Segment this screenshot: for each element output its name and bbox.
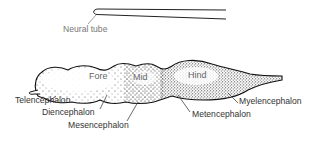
mesencephalon-leader: [127, 102, 138, 121]
neural-tube: [94, 9, 226, 19]
mesencephalon-label: Mesencephalon: [68, 120, 129, 130]
neural-tube-leader: [88, 15, 96, 24]
mid-region-label: Mid: [133, 72, 148, 82]
neural-tube-label: Neural tube: [63, 24, 108, 34]
diencephalon-label: Diencephalon: [42, 107, 95, 117]
brain-development-diagram: Neural tube Fore Mid Hind Telencephalon …: [0, 0, 316, 144]
fore-region-label: Fore: [89, 71, 108, 81]
metencephalon-label: Metencephalon: [192, 109, 251, 119]
hind-region-label: Hind: [188, 70, 207, 80]
myelencephalon-label: Myelencephalon: [239, 96, 302, 106]
telencephalon-label: Telencephalon: [15, 95, 71, 105]
